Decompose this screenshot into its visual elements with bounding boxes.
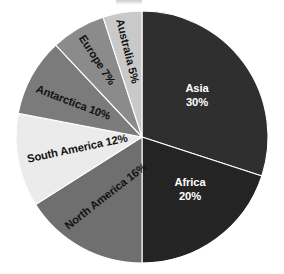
pie-chart-figure: Asia 30% Africa 20% North America 16% So… [0, 0, 284, 274]
slice-label-asia-name: Asia [185, 82, 209, 94]
slice-label-africa-name: Africa [174, 176, 206, 188]
slice-label-asia-value: 30% [186, 96, 208, 108]
pie-chart-svg: Asia 30% Africa 20% North America 16% So… [0, 0, 284, 274]
slice-label-africa-value: 20% [179, 190, 201, 202]
pie-slices-group [16, 11, 268, 263]
